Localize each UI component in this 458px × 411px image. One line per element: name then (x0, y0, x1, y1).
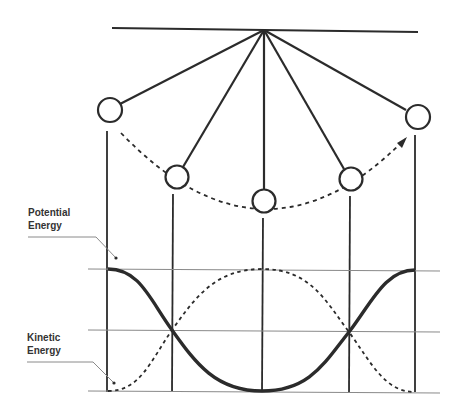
bob-right-mid (340, 168, 363, 191)
arrowhead-icon (397, 137, 407, 148)
pendulum-energy-diagram: Potential Energy Kinetic Energy (0, 0, 458, 411)
potential-label-line2: Energy (28, 219, 70, 232)
kinetic-label-line2: Energy (27, 344, 61, 357)
label-leaders (27, 237, 118, 385)
potential-energy-label: Potential Energy (28, 206, 70, 232)
bob-left-mid (166, 166, 189, 189)
kinetic-energy-label: Kinetic Energy (27, 331, 61, 357)
pendulum-strings (120, 30, 406, 190)
bob-right-extreme (406, 105, 430, 129)
kinetic-label-line1: Kinetic (27, 331, 61, 344)
potential-label-line1: Potential (28, 206, 70, 219)
bob-bottom (253, 190, 276, 213)
energy-grid (88, 269, 440, 393)
bob-left-extreme (98, 98, 122, 122)
